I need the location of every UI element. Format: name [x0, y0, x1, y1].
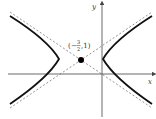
right-branch	[103, 16, 152, 104]
center-label: ( − 3 2 ,1)	[68, 39, 91, 52]
svg-text:3: 3	[77, 39, 80, 45]
center-point	[78, 57, 84, 63]
svg-text:,1): ,1)	[81, 42, 91, 50]
hyperbola-diagram: ( − 3 2 ,1) y x	[0, 0, 156, 119]
x-axis-label: x	[148, 78, 152, 86]
svg-text:2: 2	[77, 46, 80, 52]
left-branch	[10, 16, 59, 104]
y-axis-label: y	[91, 3, 97, 11]
